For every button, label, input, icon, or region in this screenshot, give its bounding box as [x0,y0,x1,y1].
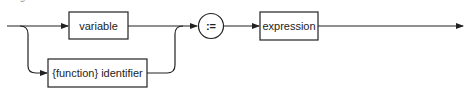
variable-node: variable [69,12,128,39]
assign-op-label: := [206,20,216,32]
branch-path-function [20,26,47,73]
function-identifier-label: {function} identifier [52,67,143,79]
function-identifier-node: {function} identifier [48,59,147,87]
expression-node: expression [260,12,318,40]
rejoin-path-function [147,26,183,73]
syntax-diagram: variable {function} identifier := expres… [0,0,467,94]
expression-label: expression [262,20,315,32]
assign-op-node: := [199,14,224,39]
variable-label: variable [79,20,118,32]
